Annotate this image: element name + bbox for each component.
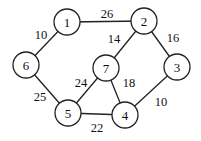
node-label: 7: [103, 61, 110, 76]
edge-weight-label: 26: [101, 7, 114, 21]
node-3: 3: [164, 54, 190, 80]
node-label: 2: [141, 14, 148, 29]
node-label: 1: [64, 15, 71, 30]
graph-diagram: 261014162524181022 1234567: [0, 0, 201, 141]
edge-weight-label: 14: [108, 32, 121, 46]
nodes-group: 1234567: [13, 8, 190, 128]
edge-weight-label: 18: [123, 76, 136, 90]
edge-weight-label: 10: [35, 28, 48, 42]
node-2: 2: [131, 8, 157, 34]
edge-weight-label: 22: [91, 121, 104, 135]
node-4: 4: [112, 102, 138, 128]
node-label: 4: [122, 108, 129, 123]
node-label: 5: [65, 106, 72, 121]
node-5: 5: [55, 100, 81, 126]
edge-weight-label: 25: [34, 90, 47, 104]
node-label: 6: [23, 58, 30, 73]
edge-weight-label: 24: [75, 76, 88, 90]
node-1: 1: [54, 9, 80, 35]
node-6: 6: [13, 52, 39, 78]
node-label: 3: [174, 60, 181, 75]
edge-weight-label: 10: [155, 95, 168, 109]
edge-weight-label: 16: [167, 31, 180, 45]
node-7: 7: [93, 55, 119, 81]
